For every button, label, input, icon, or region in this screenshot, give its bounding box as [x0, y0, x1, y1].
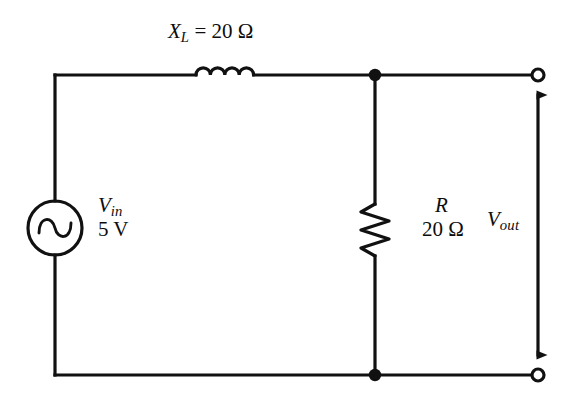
junction-dot-top — [369, 69, 381, 81]
output-subscript-text: out — [500, 217, 519, 233]
inductor-equals-text: = — [194, 19, 206, 43]
source-subscript-text: in — [111, 203, 123, 219]
source-label: Vin 5 V — [98, 194, 129, 240]
source-value-text: 5 V — [98, 218, 129, 241]
resistor-symbol-text: R — [422, 194, 464, 217]
resistor-zigzag — [361, 204, 389, 256]
terminal-bottom-right — [532, 369, 544, 381]
inductor-symbol-text: X — [168, 19, 181, 43]
inductor-unit-text: Ω — [238, 19, 254, 43]
resistor-label: R 20 Ω — [422, 194, 464, 240]
circuit-schematic-canvas — [0, 0, 572, 401]
resistor-value-text: 20 — [422, 217, 443, 241]
inductor-coil — [196, 68, 254, 75]
output-symbol-text: V — [487, 207, 500, 231]
inductor-value-text: 20 — [212, 19, 233, 43]
sine-wave-icon — [39, 220, 71, 237]
terminal-top-right — [532, 69, 544, 81]
junction-dot-bottom — [369, 369, 381, 381]
output-label: Vout — [487, 208, 519, 231]
circuit-diagram: XL = 20 Ω Vin 5 V R 20 Ω Vout — [0, 0, 572, 401]
resistor-unit-text: Ω — [448, 217, 464, 241]
inductor-label: XL = 20 Ω — [168, 20, 253, 43]
inductor-subscript-text: L — [181, 29, 189, 45]
source-symbol-text: V — [98, 193, 111, 217]
